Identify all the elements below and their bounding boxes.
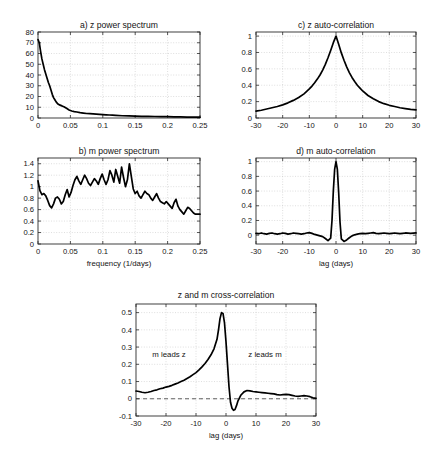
x-tick-label: 0.25 xyxy=(193,121,208,130)
panel-b-m-power-spectrum: b) m power spectrum00.050.10.150.20.2500… xyxy=(0,142,214,282)
x-tick-label: -30 xyxy=(131,419,142,428)
y-tick-label: 50 xyxy=(26,60,34,69)
panel-title-a: a) z power spectrum xyxy=(80,20,158,30)
x-tick-label: 10 xyxy=(252,419,260,428)
y-tick-label: 0 xyxy=(128,394,132,403)
y-tick-label: 80 xyxy=(26,28,34,37)
y-tick-label: 1 xyxy=(248,157,252,166)
y-tick-label: 30 xyxy=(26,81,34,90)
y-tick-label: 0 xyxy=(248,231,252,240)
x-tick-label: 30 xyxy=(412,121,420,130)
x-tick-label: 0.1 xyxy=(98,121,109,130)
panel-title-b: b) m power spectrum xyxy=(79,146,160,156)
x-tick-label: 0.05 xyxy=(63,247,78,256)
y-tick-label: 0.4 xyxy=(241,81,252,90)
y-tick-label: 0.4 xyxy=(121,326,132,335)
x-axis-label-d: lag (days) xyxy=(319,259,354,268)
annotation-1: m leads z xyxy=(152,350,185,359)
panel-a-z-power-spectrum: a) z power spectrum00.050.10.150.20.2501… xyxy=(0,14,214,142)
y-tick-label: 0.1 xyxy=(121,377,132,386)
x-tick-label: -10 xyxy=(304,247,315,256)
x-tick-label: -30 xyxy=(251,121,262,130)
x-tick-label: 0.2 xyxy=(162,247,173,256)
y-tick-label: 0.4 xyxy=(23,217,34,226)
y-tick-label: 0 xyxy=(248,114,252,123)
y-tick-label: 60 xyxy=(26,49,34,58)
y-tick-label: 0.8 xyxy=(23,194,34,203)
panel-e-cross-correlation: z and m cross-correlation-30-20-10010203… xyxy=(88,284,353,464)
data-curve-b xyxy=(38,164,200,214)
x-tick-label: 10 xyxy=(358,247,366,256)
y-tick-label: 1.4 xyxy=(23,159,34,168)
x-tick-label: 0.15 xyxy=(128,121,143,130)
y-tick-label: 0.8 xyxy=(241,172,252,181)
data-curve-a xyxy=(38,40,200,118)
x-tick-label: -10 xyxy=(191,419,202,428)
x-tick-label: -30 xyxy=(251,247,262,256)
y-tick-label: 0 xyxy=(30,114,34,123)
x-tick-label: -10 xyxy=(304,121,315,130)
x-tick-label: 0 xyxy=(334,247,338,256)
figure-canvas: a) z power spectrum00.050.10.150.20.2501… xyxy=(0,0,441,466)
y-tick-label: 0.8 xyxy=(241,48,252,57)
x-axis-label-e: lag (days) xyxy=(209,431,244,440)
y-tick-label: 0.6 xyxy=(241,65,252,74)
y-tick-label: 0.6 xyxy=(23,205,34,214)
annotation-2: z leads m xyxy=(248,350,281,359)
panel-title-c: c) z auto-correlation xyxy=(298,20,374,30)
panel-c-svg: c) z auto-correlation-30-20-10010203000.… xyxy=(214,14,441,142)
y-tick-label: 1 xyxy=(248,32,252,41)
y-tick-label: 0.2 xyxy=(121,360,132,369)
y-tick-label: 70 xyxy=(26,38,34,47)
x-tick-label: 10 xyxy=(358,121,366,130)
panel-d-svg: d) m auto-correlation-30-20-10010203000.… xyxy=(214,142,441,282)
x-tick-label: 0 xyxy=(36,247,40,256)
panel-b-svg: b) m power spectrum00.050.10.150.20.2500… xyxy=(0,142,214,282)
x-tick-label: 0.15 xyxy=(128,247,143,256)
x-tick-label: 20 xyxy=(385,247,393,256)
y-tick-label: 0 xyxy=(30,240,34,249)
x-tick-label: 0.2 xyxy=(162,121,173,130)
y-tick-label: -0.1 xyxy=(119,412,132,421)
x-tick-label: 20 xyxy=(385,121,393,130)
x-tick-label: 30 xyxy=(312,419,320,428)
y-tick-label: 40 xyxy=(26,71,34,80)
x-axis-label-b: frequency (1/days) xyxy=(87,259,152,268)
panel-c-z-auto-correlation: c) z auto-correlation-30-20-10010203000.… xyxy=(214,14,441,142)
panel-a-svg: a) z power spectrum00.050.10.150.20.2501… xyxy=(0,14,214,142)
x-tick-label: -20 xyxy=(277,247,288,256)
y-tick-label: 0.6 xyxy=(241,187,252,196)
x-tick-label: 0.25 xyxy=(193,247,208,256)
y-tick-label: 0.3 xyxy=(121,343,132,352)
y-tick-label: 0.2 xyxy=(241,97,252,106)
y-tick-label: 20 xyxy=(26,92,34,101)
y-tick-label: 0.4 xyxy=(241,201,252,210)
x-tick-label: 20 xyxy=(282,419,290,428)
panel-title-e: z and m cross-correlation xyxy=(178,290,275,300)
y-tick-label: 1 xyxy=(30,182,34,191)
plot-frame-e xyxy=(136,304,316,416)
y-tick-label: 1.2 xyxy=(23,171,34,180)
x-tick-label: -20 xyxy=(161,419,172,428)
y-tick-label: 10 xyxy=(26,103,34,112)
x-tick-label: -20 xyxy=(277,121,288,130)
x-tick-label: 0.1 xyxy=(98,247,109,256)
panel-title-d: d) m auto-correlation xyxy=(296,146,376,156)
x-tick-label: 0 xyxy=(224,419,228,428)
y-tick-label: 0.5 xyxy=(121,308,132,317)
y-tick-label: 0.2 xyxy=(23,228,34,237)
y-tick-label: 0.2 xyxy=(241,216,252,225)
panel-d-m-auto-correlation: d) m auto-correlation-30-20-10010203000.… xyxy=(214,142,441,282)
panel-e-svg: z and m cross-correlation-30-20-10010203… xyxy=(88,284,353,464)
x-tick-label: 30 xyxy=(412,247,420,256)
x-tick-label: 0.05 xyxy=(63,121,78,130)
x-tick-label: 0 xyxy=(334,121,338,130)
x-tick-label: 0 xyxy=(36,121,40,130)
